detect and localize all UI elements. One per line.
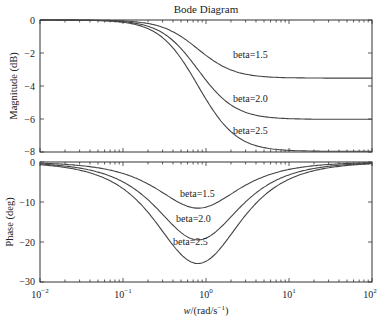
mag-label-beta-2-5: beta=2.5 [233,125,268,136]
magnitude-axes-frame [40,20,372,152]
magnitude-curve-15 [40,20,372,78]
bode-diagram: Bode Diagram 0 −2 −4 −6 −8 Magnitude (dB… [0,0,384,320]
phase-label-beta-1-5: beta=1.5 [180,188,215,199]
magnitude-ylabel: Magnitude (dB) [8,52,20,120]
x-axis-label: w/(rad/s−1) [184,304,229,317]
magnitude-panel: 0 −2 −4 −6 −8 Magnitude (dB) beta=1.5 be… [8,15,372,157]
phase-ylabel: Phase (deg) [4,197,16,247]
phase-ytick-2: −20 [19,237,35,248]
mag-ytick-4: −8 [24,146,35,157]
phase-curve-20 [40,163,372,240]
phase-panel: 0 −10 −20 −30 Phase (deg) beta=1.5 beta=… [4,157,372,287]
mag-label-beta-2-0: beta=2.0 [233,93,268,104]
xtick-3: 101 [282,287,296,300]
mag-ytick-0: 0 [30,15,35,26]
xtick-0: 10−2 [31,287,49,300]
magnitude-curve-25 [40,20,372,151]
xtick-2: 100 [199,287,213,300]
mag-ytick-3: −6 [24,114,35,125]
xtick-4: 102 [363,287,377,300]
phase-ytick-1: −10 [19,197,35,208]
magnitude-curves [40,20,372,151]
magnitude-curve-20 [40,20,372,119]
phase-ytick-0: 0 [30,157,35,168]
x-tick-labels: 10−2 10−1 100 101 102 [31,287,377,300]
chart-title: Bode Diagram [174,3,239,15]
phase-label-beta-2-5: beta=2.5 [173,236,208,247]
phase-label-beta-2-0: beta=2.0 [176,213,211,224]
mag-ytick-2: −4 [24,81,35,92]
mag-ytick-1: −2 [24,48,35,59]
mag-label-beta-1-5: beta=1.5 [233,49,268,60]
magnitude-ticks [40,20,372,152]
phase-ytick-3: −30 [19,276,35,287]
xtick-1: 10−1 [114,287,132,300]
